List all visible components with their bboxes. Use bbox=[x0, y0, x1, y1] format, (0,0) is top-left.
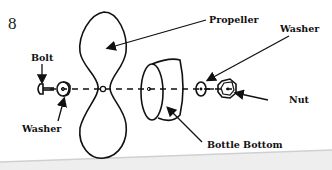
label-washer-right: Washer bbox=[280, 23, 319, 34]
label-bolt: Bolt bbox=[31, 52, 53, 63]
label-washer-left: Washer bbox=[22, 123, 61, 134]
propeller-part bbox=[80, 12, 127, 158]
assembly-diagram: 8 Bolt Washer Propeller Bottle Bottom Wa… bbox=[0, 0, 332, 170]
bottle-bottom-part bbox=[141, 59, 183, 120]
label-nut: Nut bbox=[289, 94, 309, 105]
label-propeller: Propeller bbox=[209, 14, 258, 25]
nut-part bbox=[218, 79, 236, 98]
washer-right-leader-arrow bbox=[208, 36, 289, 80]
propeller-leader-arrow bbox=[108, 20, 206, 48]
label-bottle-bottom: Bottle Bottom bbox=[207, 139, 283, 150]
bottle-bottom-leader-arrow bbox=[168, 108, 202, 142]
washer-left-leader-arrow bbox=[58, 99, 64, 121]
step-number: 8 bbox=[8, 14, 17, 34]
nut-leader-arrow bbox=[236, 93, 268, 100]
